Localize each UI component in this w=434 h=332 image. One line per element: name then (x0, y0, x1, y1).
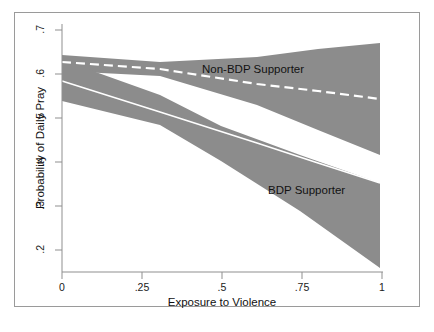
x-axis-title: Exposure to Violence (122, 296, 322, 308)
y-axis-title: Probability of Daily Pray (34, 63, 46, 233)
x-tick-label-4: 1 (372, 282, 392, 293)
y-tick-label-0: .7 (35, 18, 46, 40)
x-tick-label-2: .5 (212, 282, 232, 293)
x-axis-ticks (62, 272, 382, 279)
series-label-non-bdp-supporter: Non-BDP Supporter (202, 63, 304, 75)
y-axis-ticks (55, 30, 62, 250)
x-tick-label-0: 0 (52, 282, 72, 293)
x-tick-label-3: .75 (290, 282, 314, 293)
x-tick-label-1: .25 (130, 282, 154, 293)
chart-screenshot: .7 .6 .5 .4 .3 .2 Probability of Daily P… (0, 0, 434, 332)
series-label-bdp-supporter: BDP Supporter (268, 184, 345, 196)
y-tick-label-5: .2 (35, 238, 46, 260)
